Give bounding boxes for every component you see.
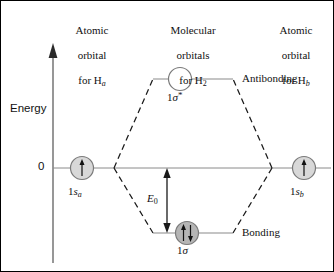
bonding-orbital-label: 1σ	[177, 244, 188, 256]
header-subscript: 2	[203, 79, 207, 88]
header-line-1: Molecular	[170, 24, 215, 36]
right-atomic-orbital-circle	[293, 157, 316, 180]
header-line-1: Atomic	[280, 24, 313, 36]
splitting-energy-symbol: E	[147, 192, 154, 204]
antibonding-label-star: *	[178, 90, 183, 100]
bonding-side-label: Bonding	[242, 226, 280, 238]
energy-axis-label: Energy	[10, 102, 46, 114]
header-line-1: Atomic	[76, 24, 109, 36]
splitting-energy-arrow	[163, 168, 170, 233]
splitting-energy-subscript: 0	[154, 197, 158, 206]
header-line-2: orbital	[78, 49, 107, 61]
left-atomic-orbital-circle	[71, 157, 94, 180]
left-atomic-orbital-label: 1sa	[68, 185, 82, 199]
header-line-2: orbitals	[177, 49, 210, 61]
bonding-orbital-circle	[176, 222, 199, 245]
header-line-3: for H	[78, 74, 102, 86]
molecular-orbitals-header: Molecular orbitals for H2	[147, 11, 239, 90]
antibonding-side-label: Antibonding	[242, 72, 298, 84]
right-atomic-orbital-label: 1sb	[290, 185, 304, 199]
header-line-3: for H	[179, 74, 203, 86]
zero-tick-label: 0	[38, 160, 44, 172]
right-atomic-label-subscript: b	[300, 190, 304, 199]
correlation-lines	[114, 79, 272, 233]
splitting-energy-label: E0	[147, 192, 158, 206]
molecular-orbital-diagram: Atomic orbital for Ha Molecular orbitals…	[0, 0, 334, 272]
header-line-2: orbital	[282, 49, 311, 61]
antibonding-orbital-label: 1σ*	[167, 90, 182, 103]
header-subscript: b	[306, 79, 310, 88]
bonding-label-sigma: σ	[183, 244, 188, 256]
header-subscript: a	[102, 79, 106, 88]
left-atomic-label-subscript: a	[78, 190, 82, 199]
left-atomic-orbital-header: Atomic orbital for Ha	[49, 11, 135, 90]
